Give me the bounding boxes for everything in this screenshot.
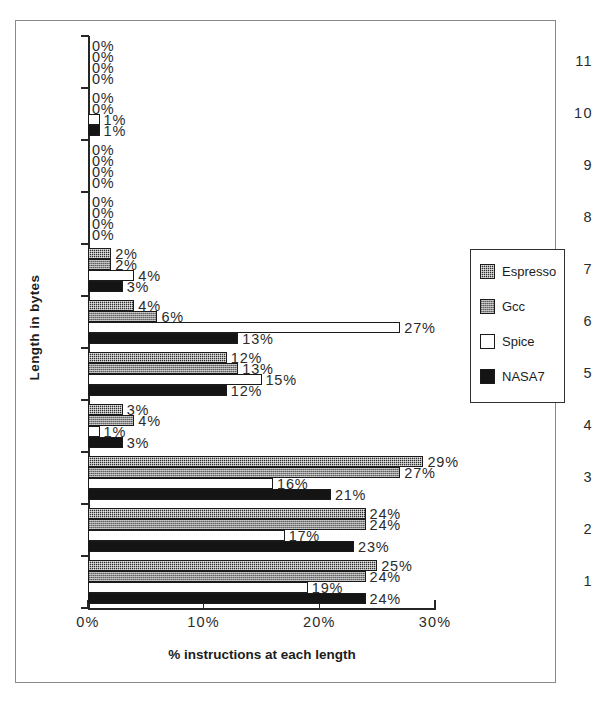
bar-group-gcc-len-3: 27%: [88, 467, 548, 478]
y-axis-tick: [81, 347, 89, 349]
bar-espresso-len-6[interactable]: [88, 300, 134, 311]
y-axis-tick: [81, 451, 89, 453]
bar-chart-plot: Length in bytes % instructions at each l…: [0, 0, 593, 701]
bar-espresso-len-1[interactable]: [88, 560, 377, 571]
legend-label-spice: Spice: [502, 334, 535, 349]
bar-nasa7-len-1[interactable]: [88, 593, 366, 604]
bar-spice-len-10[interactable]: [88, 114, 100, 125]
bar-value-label-nasa7-len-11: 0%: [88, 71, 115, 87]
bar-group-spice-len-11: 0%: [88, 62, 548, 73]
y-tick-label-2: 2: [541, 521, 593, 537]
x-tick-label-20%: 20%: [284, 614, 354, 630]
legend-label-espresso: Espresso: [502, 264, 556, 279]
legend-item-gcc[interactable]: Gcc: [480, 298, 525, 314]
y-tick-label-4: 4: [541, 417, 593, 433]
bar-nasa7-len-2[interactable]: [88, 541, 354, 552]
bar-group-nasa7-len-11: 0%: [88, 73, 548, 84]
y-tick-label-9: 9: [541, 157, 593, 173]
bar-group-espresso-len-10: 0%: [88, 92, 548, 103]
bar-spice-len-3[interactable]: [88, 478, 273, 489]
bar-spice-len-4[interactable]: [88, 426, 100, 437]
bar-nasa7-len-3[interactable]: [88, 489, 331, 500]
legend-item-nasa7[interactable]: NASA7: [480, 368, 545, 384]
bar-group-nasa7-len-1: 24%: [88, 593, 548, 604]
y-tick-label-3: 3: [541, 469, 593, 485]
bar-nasa7-len-5[interactable]: [88, 385, 227, 396]
bar-value-label-nasa7-len-5: 12%: [227, 383, 262, 399]
bar-group-spice-len-1: 19%: [88, 582, 548, 593]
bar-value-label-nasa7-len-10: 1%: [100, 123, 127, 139]
bar-value-label-nasa7-len-6: 13%: [238, 331, 273, 347]
bar-group-nasa7-len-10: 1%: [88, 125, 548, 136]
bar-value-label-nasa7-len-7: 3%: [123, 279, 150, 295]
bar-espresso-len-5[interactable]: [88, 352, 227, 363]
bar-value-label-nasa7-len-4: 3%: [123, 435, 150, 451]
bar-group-gcc-len-4: 4%: [88, 415, 548, 426]
bar-gcc-len-3[interactable]: [88, 467, 400, 478]
legend-item-espresso[interactable]: Espresso: [480, 263, 556, 279]
y-axis-tick: [81, 555, 89, 557]
bar-spice-len-2[interactable]: [88, 530, 285, 541]
bar-group-espresso-len-8: 0%: [88, 196, 548, 207]
bar-nasa7-len-4[interactable]: [88, 437, 123, 448]
y-axis-tick: [81, 243, 89, 245]
y-axis-tick: [81, 295, 89, 297]
bar-group-spice-len-4: 1%: [88, 426, 548, 437]
bar-group-nasa7-len-4: 3%: [88, 437, 548, 448]
bar-spice-len-1[interactable]: [88, 582, 308, 593]
bar-gcc-len-6[interactable]: [88, 311, 157, 322]
chart-legend: EspressoGccSpiceNASA7: [470, 249, 565, 403]
y-tick-label-1: 1: [541, 573, 593, 589]
bar-group-nasa7-len-8: 0%: [88, 229, 548, 240]
bar-espresso-len-2[interactable]: [88, 508, 366, 519]
bar-group-spice-len-8: 0%: [88, 218, 548, 229]
spice-white-swatch: [480, 334, 495, 349]
bar-espresso-len-4[interactable]: [88, 404, 123, 415]
bar-value-label-nasa7-len-8: 0%: [88, 227, 115, 243]
bar-group-gcc-len-8: 0%: [88, 207, 548, 218]
bar-group-spice-len-3: 16%: [88, 478, 548, 489]
bar-group-espresso-len-1: 25%: [88, 560, 548, 571]
bar-group-gcc-len-10: 0%: [88, 103, 548, 114]
bar-group-spice-len-9: 0%: [88, 166, 548, 177]
bar-group-nasa7-len-9: 0%: [88, 177, 548, 188]
bar-group-espresso-len-3: 29%: [88, 456, 548, 467]
x-axis-title: % instructions at each length: [88, 647, 436, 662]
bar-group-spice-len-2: 17%: [88, 530, 548, 541]
bar-group-gcc-len-9: 0%: [88, 155, 548, 166]
x-axis-line: [88, 608, 436, 610]
gcc-pattern-swatch: [480, 299, 495, 314]
bar-espresso-len-7[interactable]: [88, 248, 111, 259]
y-axis-title: Length in bytes: [27, 238, 42, 418]
y-axis-tick: [81, 503, 89, 505]
espresso-pattern-swatch: [480, 264, 495, 279]
bar-group-spice-len-10: 1%: [88, 114, 548, 125]
legend-label-gcc: Gcc: [502, 299, 525, 314]
bar-gcc-len-5[interactable]: [88, 363, 238, 374]
y-tick-label-8: 8: [541, 209, 593, 225]
nasa7-black-swatch: [480, 369, 495, 384]
bar-group-gcc-len-11: 0%: [88, 51, 548, 62]
bar-group-nasa7-len-2: 23%: [88, 541, 548, 552]
bar-gcc-len-7[interactable]: [88, 259, 111, 270]
legend-label-nasa7: NASA7: [502, 369, 545, 384]
bar-gcc-len-2[interactable]: [88, 519, 366, 530]
y-tick-label-10: 10: [541, 105, 593, 121]
bar-nasa7-len-10[interactable]: [88, 125, 100, 136]
x-tick-label-10%: 10%: [169, 614, 239, 630]
bar-espresso-len-3[interactable]: [88, 456, 423, 467]
bar-group-nasa7-len-3: 21%: [88, 489, 548, 500]
bar-nasa7-len-6[interactable]: [88, 333, 238, 344]
bar-group-espresso-len-11: 0%: [88, 40, 548, 51]
bar-group-espresso-len-2: 24%: [88, 508, 548, 519]
bar-nasa7-len-7[interactable]: [88, 281, 123, 292]
x-tick-label-30%: 30%: [400, 614, 470, 630]
bar-value-label-nasa7-len-2: 23%: [354, 539, 389, 555]
y-axis-tick: [81, 399, 89, 401]
y-tick-label-11: 11: [541, 53, 593, 69]
x-tick-label-0%: 0%: [53, 614, 123, 630]
bar-value-label-nasa7-len-3: 21%: [331, 487, 366, 503]
legend-item-spice[interactable]: Spice: [480, 333, 535, 349]
bar-value-label-nasa7-len-1: 24%: [366, 591, 401, 607]
bar-group-espresso-len-9: 0%: [88, 144, 548, 155]
